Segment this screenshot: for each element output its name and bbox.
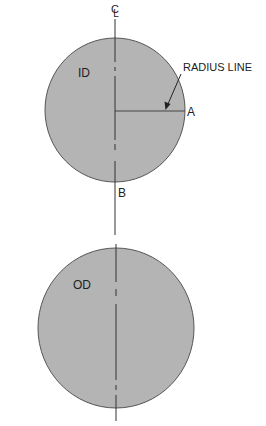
centerline-diagram: C L ID OD RADIUS LINE A B — [0, 0, 266, 426]
point-a-label: A — [187, 105, 195, 119]
od-label: OD — [73, 278, 91, 292]
radius-line-label: RADIUS LINE — [183, 61, 252, 73]
centerline-symbol: C L — [111, 3, 119, 19]
id-label: ID — [78, 66, 90, 80]
centerline-l-glyph: L — [113, 8, 119, 19]
point-b-label: B — [118, 186, 126, 200]
